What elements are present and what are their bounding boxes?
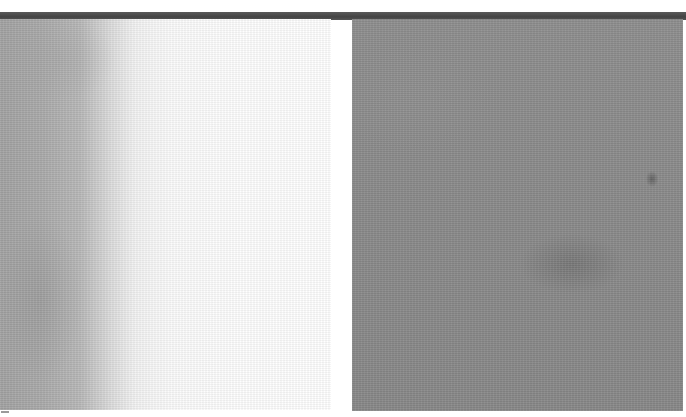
corner-mark [1, 411, 9, 413]
noise-overlay [0, 19, 331, 410]
right-texture-photo [352, 19, 683, 411]
noise-overlay [352, 19, 683, 411]
left-texture-photo [0, 19, 331, 410]
